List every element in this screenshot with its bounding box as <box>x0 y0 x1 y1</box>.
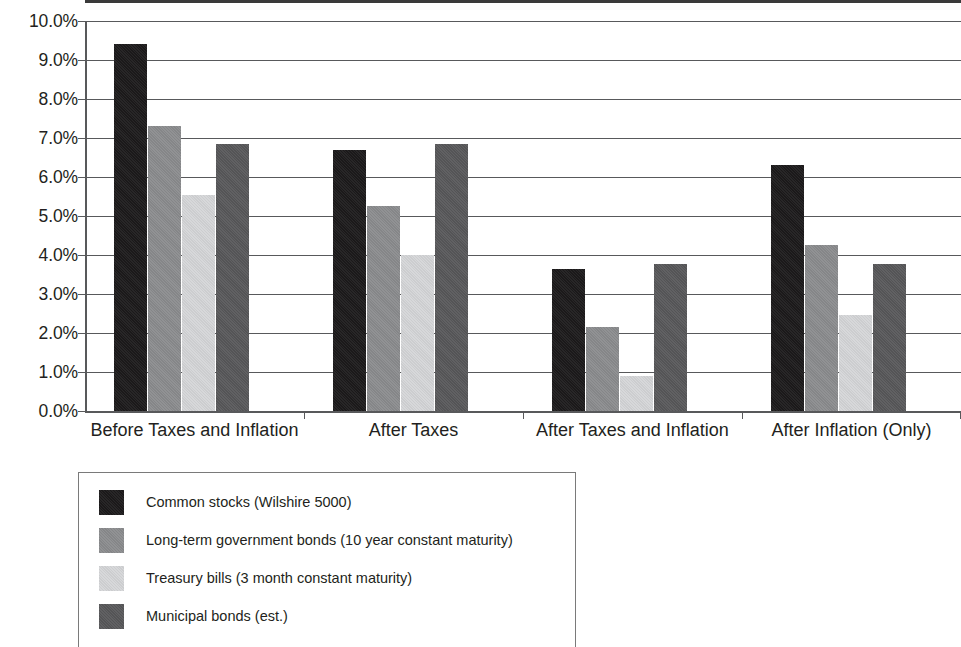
bar <box>182 195 215 411</box>
y-axis-tick-label: 9.0% <box>6 52 78 70</box>
y-axis-tick-label: 6.0% <box>6 169 78 187</box>
chart-legend: Common stocks (Wilshire 5000)Long-term g… <box>78 472 576 647</box>
bar <box>367 206 400 411</box>
y-axis-tick <box>78 216 86 217</box>
bar <box>435 144 468 411</box>
x-axis-category-label: After Taxes <box>304 419 523 441</box>
y-axis-tick <box>78 294 86 295</box>
legend-swatch-icon <box>99 566 124 591</box>
bar <box>839 315 872 411</box>
y-axis-tick-label: 0.0% <box>6 403 78 421</box>
y-axis-tick-label: 3.0% <box>6 286 78 304</box>
legend-label: Long-term government bonds (10 year cons… <box>146 532 513 549</box>
bar <box>401 255 434 411</box>
x-axis-tick <box>523 411 524 419</box>
y-axis-tick <box>78 60 86 61</box>
y-axis-tick <box>78 333 86 334</box>
y-axis-tick <box>78 372 86 373</box>
y-axis-tick-label: 1.0% <box>6 364 78 382</box>
bar <box>620 376 653 411</box>
gridline <box>85 60 961 61</box>
gridline <box>85 99 961 100</box>
legend-swatch-icon <box>99 528 124 553</box>
bar <box>805 245 838 411</box>
bar <box>771 165 804 411</box>
y-axis-tick-label: 8.0% <box>6 91 78 109</box>
y-axis-tick <box>78 21 86 22</box>
y-axis-tick-label: 10.0% <box>6 13 78 31</box>
x-axis-category-label: Before Taxes and Inflation <box>85 419 304 441</box>
y-axis-tick <box>78 411 86 412</box>
legend-item: Long-term government bonds (10 year cons… <box>99 527 513 553</box>
bar <box>873 264 906 411</box>
y-axis-tick-label: 4.0% <box>6 247 78 265</box>
y-axis-tick-label: 7.0% <box>6 130 78 148</box>
legend-swatch-icon <box>99 490 124 515</box>
y-axis-tick <box>78 99 86 100</box>
legend-item: Common stocks (Wilshire 5000) <box>99 489 351 515</box>
bar-chart: 10.0%9.0%8.0%7.0%6.0%5.0%4.0%3.0%2.0%1.0… <box>0 0 961 647</box>
legend-swatch-icon <box>99 604 124 629</box>
x-axis-category-label: After Taxes and Inflation <box>523 419 742 441</box>
bar <box>216 144 249 411</box>
y-axis-tick-labels: 10.0%9.0%8.0%7.0%6.0%5.0%4.0%3.0%2.0%1.0… <box>0 21 78 412</box>
gridline <box>85 138 961 139</box>
bar <box>148 126 181 411</box>
bar <box>552 269 585 411</box>
plot-area <box>85 21 961 411</box>
y-axis-tick <box>78 177 86 178</box>
legend-label: Municipal bonds (est.) <box>146 608 288 625</box>
x-axis-tick <box>742 411 743 419</box>
top-divider-rule <box>85 0 961 3</box>
x-axis-tick <box>304 411 305 419</box>
bar <box>654 264 687 411</box>
y-axis-tick-label: 2.0% <box>6 325 78 343</box>
legend-item: Treasury bills (3 month constant maturit… <box>99 565 412 591</box>
bar <box>586 327 619 411</box>
x-axis-category-labels: Before Taxes and InflationAfter TaxesAft… <box>85 419 961 449</box>
y-axis-tick <box>78 138 86 139</box>
bar <box>114 44 147 411</box>
y-axis-tick <box>78 255 86 256</box>
gridline <box>85 21 961 22</box>
y-axis-tick-label: 5.0% <box>6 208 78 226</box>
legend-label: Common stocks (Wilshire 5000) <box>146 494 351 511</box>
legend-label: Treasury bills (3 month constant maturit… <box>146 570 412 587</box>
legend-item: Municipal bonds (est.) <box>99 603 288 629</box>
bar <box>333 150 366 411</box>
x-axis-category-label: After Inflation (Only) <box>742 419 961 441</box>
